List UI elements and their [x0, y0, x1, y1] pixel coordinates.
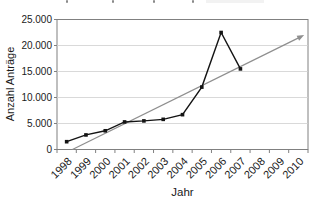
x-tick-label: 2008: [241, 155, 267, 181]
data-point-marker: [219, 31, 223, 35]
data-point-marker: [200, 85, 204, 89]
chart-canvas: 05.00010.00015.00020.00025.0001998199920…: [0, 0, 319, 207]
x-tick-label: 2005: [183, 155, 209, 181]
plot-area-border: [57, 20, 308, 150]
x-tick-label: 1998: [48, 155, 74, 181]
x-tick-label: 2002: [126, 155, 152, 181]
data-point-marker: [239, 67, 243, 71]
data-point-marker: [161, 118, 165, 122]
x-axis-title: Jahr: [57, 186, 308, 198]
y-tick-label: 20.000: [21, 40, 52, 51]
data-point-marker: [181, 113, 185, 117]
data-point-marker: [84, 133, 88, 137]
x-tick-label: 2006: [203, 155, 229, 181]
y-tick-label: 10.000: [21, 92, 52, 103]
y-tick-label: 25.000: [21, 14, 52, 25]
y-tick-label: 0: [46, 144, 52, 155]
y-axis-title: Anzahl Anträge: [4, 47, 16, 122]
y-tick-label: 5.000: [27, 118, 52, 129]
y-tick-label: 15.000: [21, 66, 52, 77]
x-tick-label: 1999: [68, 155, 94, 181]
x-tick-label: 2001: [106, 155, 132, 181]
x-tick-label: 2003: [145, 155, 171, 181]
data-point-marker: [103, 129, 107, 133]
x-tick-label: 2009: [261, 155, 287, 181]
data-point-marker: [123, 120, 127, 124]
x-tick-label: 2004: [164, 155, 190, 181]
x-tick-label: 2010: [280, 155, 306, 181]
x-tick-label: 2007: [222, 155, 248, 181]
data-point-marker: [65, 140, 69, 144]
data-point-marker: [142, 119, 146, 123]
x-tick-label: 2000: [87, 155, 113, 181]
line-chart-plot: 05.00010.00015.00020.00025.0001998199920…: [0, 0, 319, 207]
